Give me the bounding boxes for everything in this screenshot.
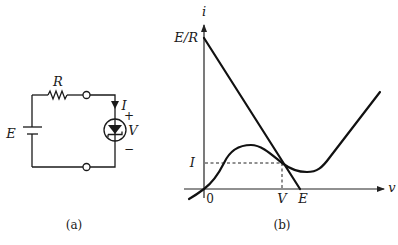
voltage-label: V: [128, 123, 139, 138]
right-wire-bottom: [90, 141, 115, 167]
terminal-bottom-icon: [83, 164, 90, 171]
y-axis-label: i: [202, 4, 206, 19]
source-label: E: [5, 126, 16, 141]
tunnel-diode-icon: [104, 119, 126, 141]
diode-characteristic-curve: [189, 92, 380, 199]
x-axis-label: v: [388, 180, 396, 195]
circuit-diagram: R E I + V − (a): [5, 74, 139, 232]
caption-b: (b): [273, 218, 290, 232]
caption-a: (a): [66, 218, 83, 232]
top-wire-right: [90, 95, 115, 119]
tick-label-i: I: [189, 155, 196, 170]
resistor-icon: [48, 91, 67, 99]
tick-label-origin: 0: [206, 192, 214, 206]
plus-label: +: [124, 109, 134, 123]
terminal-top-icon: [83, 92, 90, 99]
iv-graph: i v E/R I 0 V E (b): [173, 4, 396, 232]
figure: R E I + V − (a) i v E/R I 0 V E (b): [0, 0, 398, 245]
resistor-label: R: [52, 74, 63, 89]
tick-label-e-over-r: E/R: [173, 30, 198, 45]
tick-label-v: V: [277, 191, 288, 206]
minus-label: −: [124, 142, 134, 156]
tick-label-e: E: [297, 191, 308, 206]
current-arrow-icon: [111, 101, 119, 109]
